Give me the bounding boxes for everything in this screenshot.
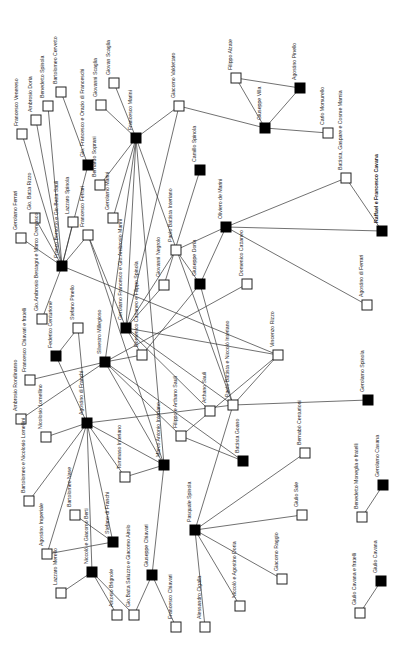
node-label: Carlo Morsurello bbox=[319, 87, 325, 125]
edge bbox=[134, 575, 152, 615]
node-open-square-icon bbox=[109, 78, 119, 88]
node-open-square-icon bbox=[56, 588, 66, 598]
node-label: Paolo Battista e Niccolò Interiano bbox=[224, 320, 230, 397]
node-layer bbox=[16, 73, 388, 632]
node-open-square-icon bbox=[357, 512, 367, 522]
edge bbox=[179, 106, 265, 128]
node-label: Domenico Cattaneo e Filippo Spinola bbox=[133, 261, 139, 347]
node-open-square-icon bbox=[24, 496, 34, 506]
node-label: Giovanni Negrolo bbox=[155, 237, 161, 277]
node-filled-square-icon bbox=[87, 567, 97, 577]
node-filled-square-icon bbox=[159, 460, 169, 470]
node-label: Bartolomeo Cervetto bbox=[52, 36, 58, 84]
node-label: Giuseppe Chiavari bbox=[143, 524, 149, 567]
node-open-square-icon bbox=[68, 217, 78, 227]
node-label: Alessandro Cigalla bbox=[196, 576, 202, 619]
node-filled-square-icon bbox=[363, 395, 373, 405]
edge bbox=[125, 465, 164, 477]
node-filled-square-icon bbox=[121, 323, 131, 333]
node-label: Giacomo Valdettaro bbox=[170, 52, 176, 98]
node-label: Vincenzo Rizzo bbox=[269, 311, 275, 347]
node-open-square-icon bbox=[362, 300, 372, 310]
node-label: Gio.Batta Saluzzo e Giacomo Airolo bbox=[125, 524, 131, 607]
node-filled-square-icon bbox=[195, 279, 205, 289]
node-label: Battista, Gaspare e Cosme Marnia bbox=[337, 90, 343, 170]
node-open-square-icon bbox=[205, 406, 215, 416]
node-label: Silvestro Millegioso bbox=[96, 309, 102, 354]
node-filled-square-icon bbox=[147, 570, 157, 580]
node-open-square-icon bbox=[171, 622, 181, 632]
node-label: Giacomo Raggio bbox=[273, 532, 279, 571]
node-label: Ambrosio Doria bbox=[27, 76, 33, 112]
edge bbox=[265, 88, 300, 128]
edge bbox=[200, 227, 226, 284]
node-label: Bartolomeo e Nicolosio Lomellini bbox=[20, 418, 26, 493]
node-open-square-icon bbox=[174, 101, 184, 111]
node-label: Niccolò e Agostino Doria bbox=[231, 541, 237, 598]
node-label: Paolo Battista Interiano bbox=[167, 188, 173, 242]
edge bbox=[46, 423, 87, 437]
node-open-square-icon bbox=[70, 510, 80, 520]
node-filled-square-icon bbox=[57, 261, 67, 271]
node-label: Benedetto Moneglia e fratelli bbox=[353, 443, 359, 509]
node-label: Agostino di Ferrari bbox=[358, 255, 364, 297]
node-label: Bernardo Soprani bbox=[91, 136, 97, 177]
node-open-square-icon bbox=[355, 608, 365, 618]
edge bbox=[126, 285, 164, 328]
edge bbox=[176, 227, 226, 250]
node-label: Filippo e Arthano Sauli bbox=[172, 376, 178, 428]
node-open-square-icon bbox=[235, 601, 245, 611]
node-filled-square-icon bbox=[100, 357, 110, 367]
node-label: Bartolomeo Nase bbox=[66, 467, 72, 507]
node-label: Francesco Venereso bbox=[13, 78, 19, 126]
node-filled-square-icon bbox=[195, 165, 205, 175]
node-filled-square-icon bbox=[378, 480, 388, 490]
node-open-square-icon bbox=[83, 230, 93, 240]
node-filled-square-icon bbox=[108, 537, 118, 547]
node-filled-square-icon bbox=[238, 456, 248, 466]
node-label: Gio.Ambrosio Bestagni e Marco Cremasco bbox=[33, 213, 39, 311]
node-filled-square-icon bbox=[190, 525, 200, 535]
node-label: Gerolamo Marini bbox=[104, 172, 110, 210]
node-label: Gerolamo Cavana bbox=[374, 435, 380, 477]
node-label: Raffael e Francesco Cavana bbox=[373, 154, 379, 223]
edge bbox=[195, 515, 302, 530]
node-open-square-icon bbox=[171, 245, 181, 255]
node-open-square-icon bbox=[176, 431, 186, 441]
node-label: Oliviero de Marini bbox=[217, 179, 223, 219]
node-open-square-icon bbox=[159, 280, 169, 290]
node-label: Francesco Chiavari bbox=[167, 574, 173, 619]
edge bbox=[126, 328, 233, 405]
network-canvas: Francesco VeneresoAmbrosio DoriaBenedett… bbox=[0, 0, 404, 650]
node-open-square-icon bbox=[228, 400, 238, 410]
node-label: Francesco Ferrari bbox=[79, 186, 85, 227]
edge bbox=[152, 465, 164, 575]
node-label: Gerolamo Spinola bbox=[359, 350, 365, 392]
node-open-square-icon bbox=[273, 350, 283, 360]
node-label: Camillo Spinola bbox=[191, 126, 197, 162]
node-label: Pasquale Spinola bbox=[186, 482, 192, 522]
node-label: Filippo Alzate bbox=[227, 39, 233, 70]
node-label: Tommaso Interiano bbox=[116, 425, 122, 469]
node-open-square-icon bbox=[25, 375, 35, 385]
edge bbox=[195, 530, 282, 579]
node-label: Gio. Francesco e Orazio di Franceschi bbox=[79, 68, 85, 157]
node-label: Francesco Chiavari e fratelli bbox=[21, 308, 27, 372]
node-open-square-icon bbox=[16, 233, 26, 243]
node-label: Arthano Sauli bbox=[201, 372, 207, 403]
node-open-square-icon bbox=[96, 100, 106, 110]
node-label: Gio. Batta Rizzo bbox=[26, 172, 32, 210]
edge bbox=[226, 178, 346, 227]
node-filled-square-icon bbox=[82, 418, 92, 428]
edge-layer bbox=[21, 78, 383, 627]
node-label: Stefano di Franchi bbox=[104, 492, 110, 534]
node-open-square-icon bbox=[120, 472, 130, 482]
edge bbox=[265, 128, 328, 133]
edge bbox=[233, 355, 278, 405]
node-open-square-icon bbox=[137, 350, 147, 360]
node-label: Niccolò e Giacomo Berti bbox=[83, 508, 89, 564]
node-filled-square-icon bbox=[51, 351, 61, 361]
node-open-square-icon bbox=[37, 314, 47, 324]
node-label: Agostino di Franchi bbox=[78, 371, 84, 415]
node-filled-square-icon bbox=[295, 83, 305, 93]
